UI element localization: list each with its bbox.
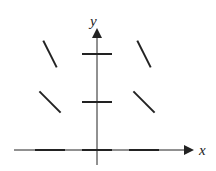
- slope-field-diagram: x y: [0, 0, 216, 171]
- slope-segment: [39, 91, 60, 112]
- y-axis-arrow-icon: [92, 28, 102, 38]
- x-axis-label: x: [198, 142, 206, 158]
- slope-field-canvas: x y: [0, 0, 216, 171]
- y-axis-label: y: [88, 13, 97, 29]
- slope-segment: [133, 91, 154, 112]
- slope-segment: [137, 41, 150, 68]
- slope-segment: [43, 41, 56, 68]
- x-axis-arrow-icon: [184, 145, 194, 155]
